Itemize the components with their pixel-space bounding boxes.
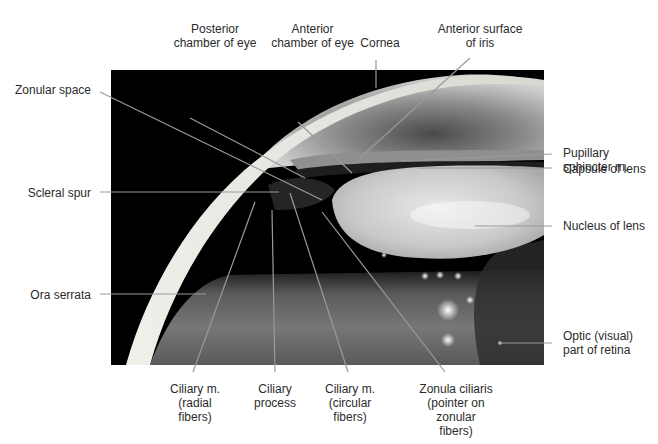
label-nucleus-lens: Nucleus of lens bbox=[563, 219, 645, 233]
label-anterior-surface-iris: Anterior surface of iris bbox=[425, 22, 535, 50]
label-line: Zonular space bbox=[0, 83, 91, 97]
label-line: zonular bbox=[406, 410, 506, 424]
label-line: Anterior surface bbox=[425, 22, 535, 36]
eye-anatomy-figure: Posterior chamber of eye Anterior chambe… bbox=[0, 0, 658, 444]
label-line: Ciliary m. bbox=[160, 382, 230, 396]
label-line: fibers) bbox=[406, 424, 506, 438]
label-line: of iris bbox=[425, 36, 535, 50]
label-line: (circular bbox=[315, 396, 385, 410]
label-line: Optic (visual) bbox=[563, 329, 633, 343]
label-zonula-ciliaris: Zonula ciliaris (pointer on zonular fibe… bbox=[406, 382, 506, 438]
label-line: part of retina bbox=[563, 343, 633, 357]
label-capsule-lens: Capsule of lens bbox=[563, 162, 646, 176]
label-line: (pointer on bbox=[406, 396, 506, 410]
label-line: (radial bbox=[160, 396, 230, 410]
label-ciliary-process: Ciliary process bbox=[245, 382, 305, 410]
photo-content bbox=[111, 70, 544, 365]
label-cornea: Cornea bbox=[355, 36, 405, 50]
label-line: fibers) bbox=[160, 410, 230, 424]
label-line: Scleral spur bbox=[0, 186, 91, 200]
label-line: Ora serrata bbox=[0, 288, 91, 302]
label-zonular-space: Zonular space bbox=[0, 83, 91, 97]
label-optic-retina: Optic (visual) part of retina bbox=[563, 329, 633, 357]
label-line: process bbox=[245, 396, 305, 410]
eye-section-photo bbox=[0, 0, 658, 444]
label-anterior-chamber: Anterior chamber of eye bbox=[255, 22, 370, 50]
label-ciliary-circular: Ciliary m. (circular fibers) bbox=[315, 382, 385, 424]
label-line: Anterior bbox=[255, 22, 370, 36]
label-line: Nucleus of lens bbox=[563, 219, 645, 233]
label-line: Cornea bbox=[355, 36, 405, 50]
label-line: fibers) bbox=[315, 410, 385, 424]
label-line: chamber of eye bbox=[255, 36, 370, 50]
label-line: Pupillary bbox=[563, 146, 628, 160]
label-line: Ciliary bbox=[245, 382, 305, 396]
label-ciliary-radial: Ciliary m. (radial fibers) bbox=[160, 382, 230, 424]
label-line: Ciliary m. bbox=[315, 382, 385, 396]
label-line: Zonula ciliaris bbox=[406, 382, 506, 396]
label-scleral-spur: Scleral spur bbox=[0, 186, 91, 200]
label-ora-serrata: Ora serrata bbox=[0, 288, 91, 302]
label-line: Capsule of lens bbox=[563, 162, 646, 176]
